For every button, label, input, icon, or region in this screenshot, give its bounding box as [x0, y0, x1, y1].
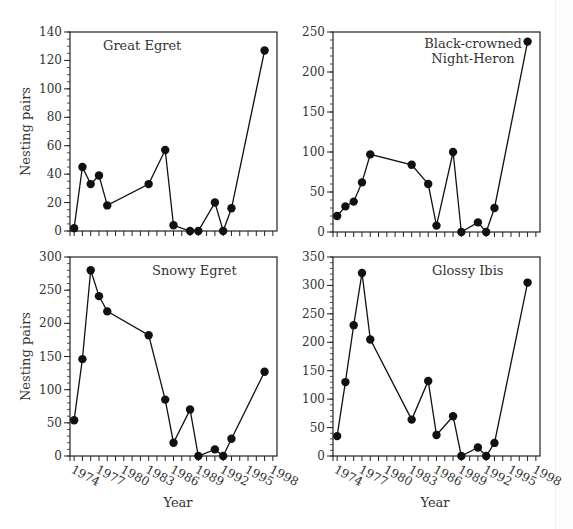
- data-point-marker: [424, 180, 432, 188]
- data-point-marker: [78, 355, 86, 363]
- data-point-marker: [358, 178, 366, 186]
- y-tick-label: 50: [310, 421, 325, 435]
- data-point-marker: [341, 378, 349, 386]
- y-axis-label: Nesting pairs: [18, 312, 33, 401]
- panel-title: Great Egret: [103, 38, 182, 53]
- y-tick-label: 0: [317, 449, 325, 463]
- data-point-marker: [169, 221, 177, 229]
- panel-title: Snowy Egret: [152, 263, 237, 278]
- y-tick-label: 350: [302, 250, 325, 264]
- y-tick-label: 150: [39, 350, 62, 364]
- y-axis-label: Nesting pairs: [18, 87, 33, 176]
- y-tick-label: 100: [39, 82, 62, 96]
- data-point-marker: [358, 269, 366, 277]
- data-point-marker: [350, 321, 358, 329]
- data-point-marker: [144, 331, 152, 339]
- y-tick-label: 0: [54, 224, 62, 238]
- data-point-marker: [219, 227, 227, 235]
- data-line: [337, 42, 527, 232]
- data-point-marker: [144, 180, 152, 188]
- data-point-marker: [260, 368, 268, 376]
- data-point-marker: [366, 335, 374, 343]
- data-point-marker: [87, 180, 95, 188]
- x-axis-label-left: Year: [162, 495, 193, 510]
- data-point-marker: [186, 227, 194, 235]
- data-point-marker: [95, 171, 103, 179]
- chart-panel-great-egret: 020406080100120140Nesting pairsGreat Egr…: [18, 25, 277, 238]
- plot-frame: [70, 257, 277, 456]
- data-point-marker: [407, 415, 415, 423]
- data-line: [74, 270, 265, 456]
- data-point-marker: [70, 416, 78, 424]
- data-point-marker: [211, 445, 219, 453]
- chart-panel-glossy-ibis: 0501001502002503003501974197719801983198…: [302, 250, 564, 489]
- data-point-marker: [95, 292, 103, 300]
- data-point-marker: [87, 266, 95, 274]
- data-point-marker: [407, 161, 415, 169]
- y-tick-label: 300: [302, 278, 325, 292]
- data-point-marker: [432, 221, 440, 229]
- panel-title: Night-Heron: [431, 51, 515, 66]
- data-point-marker: [78, 163, 86, 171]
- data-point-marker: [474, 218, 482, 226]
- y-tick-label: 50: [47, 416, 62, 430]
- data-line: [337, 273, 527, 456]
- y-tick-label: 250: [302, 307, 325, 321]
- data-point-marker: [103, 201, 111, 209]
- data-point-marker: [350, 197, 358, 205]
- panel-title: Black-crowned: [424, 36, 522, 51]
- data-point-marker: [227, 204, 235, 212]
- y-tick-label: 100: [39, 383, 62, 397]
- y-tick-label: 60: [47, 139, 62, 153]
- data-point-marker: [523, 37, 531, 45]
- data-point-marker: [482, 228, 490, 236]
- y-tick-label: 150: [302, 364, 325, 378]
- data-point-marker: [70, 224, 78, 232]
- y-tick-label: 300: [39, 250, 62, 264]
- data-point-marker: [474, 443, 482, 451]
- data-point-marker: [333, 432, 341, 440]
- data-point-marker: [260, 46, 268, 54]
- data-point-marker: [103, 307, 111, 315]
- y-tick-label: 20: [47, 196, 62, 210]
- plot-frame: [70, 32, 277, 231]
- data-point-marker: [194, 452, 202, 460]
- y-tick-label: 40: [47, 167, 62, 181]
- y-tick-label: 100: [302, 145, 325, 159]
- data-line: [74, 51, 265, 232]
- y-tick-label: 0: [317, 225, 325, 239]
- data-point-marker: [161, 395, 169, 403]
- y-tick-label: 50: [310, 185, 325, 199]
- y-tick-label: 200: [302, 65, 325, 79]
- y-tick-label: 250: [302, 25, 325, 39]
- y-tick-label: 80: [47, 110, 62, 124]
- y-tick-label: 250: [39, 283, 62, 297]
- data-point-marker: [449, 412, 457, 420]
- data-point-marker: [482, 452, 490, 460]
- y-tick-label: 0: [54, 449, 62, 463]
- y-tick-label: 150: [302, 105, 325, 119]
- x-tick-label: 1998: [267, 462, 301, 489]
- data-point-marker: [432, 431, 440, 439]
- data-point-marker: [341, 202, 349, 210]
- x-axis-label-right: Year: [419, 495, 450, 510]
- y-tick-label: 200: [39, 316, 62, 330]
- data-point-marker: [424, 377, 432, 385]
- data-point-marker: [227, 435, 235, 443]
- data-point-marker: [457, 228, 465, 236]
- data-point-marker: [219, 452, 227, 460]
- y-tick-label: 120: [39, 53, 62, 67]
- data-point-marker: [333, 212, 341, 220]
- data-point-marker: [186, 405, 194, 413]
- data-point-marker: [449, 148, 457, 156]
- y-tick-label: 100: [302, 392, 325, 406]
- data-point-marker: [194, 227, 202, 235]
- chart-panel-black-crowned-night-heron: 050100150200250Black-crownedNight-Heron: [302, 25, 540, 239]
- data-point-marker: [490, 439, 498, 447]
- data-point-marker: [161, 146, 169, 154]
- chart-panels: 020406080100120140Nesting pairsGreat Egr…: [18, 25, 564, 489]
- panel-title: Glossy Ibis: [432, 263, 503, 278]
- y-tick-label: 140: [39, 25, 62, 39]
- data-point-marker: [457, 452, 465, 460]
